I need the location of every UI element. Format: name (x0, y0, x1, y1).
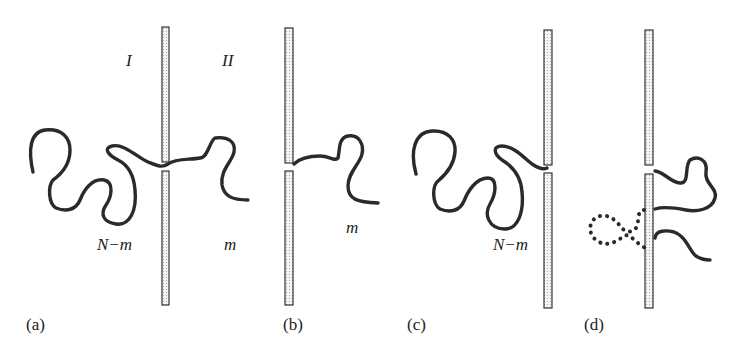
panel-label-c: (c) (407, 315, 426, 334)
panel-label-a: (a) (26, 315, 45, 334)
polymer-chain-lower (655, 231, 710, 260)
segment-label-N-minus-m: N−m (96, 235, 132, 254)
panel-d: (d) (584, 30, 715, 334)
polymer-chain-upper (655, 158, 715, 211)
membrane-translocation-figure: I II N−m m (a) m (b) N−m (c) (d) (0, 0, 736, 357)
membrane-wall-lower (162, 171, 169, 305)
polymer-chain-dotted-loop (590, 210, 646, 248)
polymer-chain (294, 136, 378, 203)
membrane-wall-upper (162, 27, 169, 162)
panel-label-b: (b) (283, 315, 303, 334)
membrane-wall-upper (645, 30, 653, 165)
panel-label-d: (d) (584, 315, 604, 334)
segment-label-N-minus-m: N−m (492, 235, 528, 254)
polymer-chain (31, 130, 248, 224)
segment-label-m: m (346, 218, 358, 237)
region-label-II: II (221, 51, 235, 70)
membrane-wall-lower (645, 174, 653, 308)
segment-label-m: m (224, 235, 236, 254)
panel-c: N−m (c) (407, 30, 552, 334)
membrane-wall-upper (544, 30, 552, 165)
polymer-chain (413, 131, 547, 229)
membrane-wall-lower (285, 171, 293, 305)
region-label-I: I (125, 51, 133, 70)
panel-b: m (b) (283, 28, 378, 334)
membrane-wall-lower (544, 173, 552, 308)
membrane-wall-upper (285, 28, 293, 163)
panel-a: I II N−m m (a) (26, 27, 248, 334)
